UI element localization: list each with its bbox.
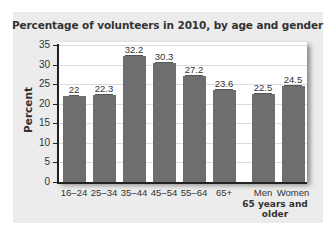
bar (63, 96, 86, 182)
y-tick-label: 0 (28, 176, 50, 187)
value-label: 27.2 (177, 64, 211, 75)
y-tick-label: 35 (28, 39, 50, 50)
bar (93, 95, 116, 182)
y-tick (53, 182, 58, 183)
value-label: 24.5 (276, 74, 310, 85)
value-label: 22 (57, 84, 91, 95)
x-tick-label: Women (273, 187, 313, 198)
bar (213, 90, 236, 182)
bar (252, 94, 275, 182)
group-label: 65 years and older (235, 199, 315, 219)
bar (153, 63, 176, 182)
y-tick (53, 65, 58, 66)
bar (183, 76, 206, 182)
value-label: 30.3 (147, 51, 181, 62)
bar (123, 56, 146, 182)
value-label: 23.6 (207, 78, 241, 89)
y-tick (53, 162, 58, 163)
x-axis (57, 182, 307, 184)
value-label: 22.5 (246, 82, 280, 93)
chart-title: Percentage of volunteers in 2010, by age… (0, 19, 335, 31)
y-tick (53, 104, 58, 105)
y-tick-label: 10 (28, 137, 50, 148)
y-tick-label: 15 (28, 117, 50, 128)
y-axis-title: Percent (22, 80, 34, 140)
y-tick (53, 143, 58, 144)
y-tick (53, 123, 58, 124)
y-tick (53, 45, 58, 46)
x-tick-label: 65+ (204, 187, 244, 198)
value-label: 22.3 (87, 83, 121, 94)
gridline (58, 45, 307, 46)
value-label: 32.2 (117, 44, 151, 55)
y-tick-label: 25 (28, 78, 50, 89)
y-tick-label: 5 (28, 156, 50, 167)
bar (282, 86, 305, 182)
y-tick-label: 20 (28, 98, 50, 109)
y-tick-label: 30 (28, 59, 50, 70)
